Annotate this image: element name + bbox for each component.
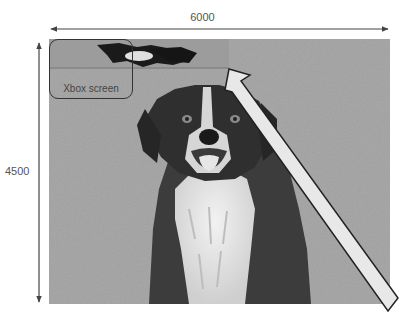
- xbox-screen-label: Xbox screen: [49, 83, 133, 94]
- height-dimension-label: 4500: [5, 165, 29, 177]
- pointer-arrow: [225, 69, 398, 311]
- width-dimension-label: 6000: [0, 11, 405, 23]
